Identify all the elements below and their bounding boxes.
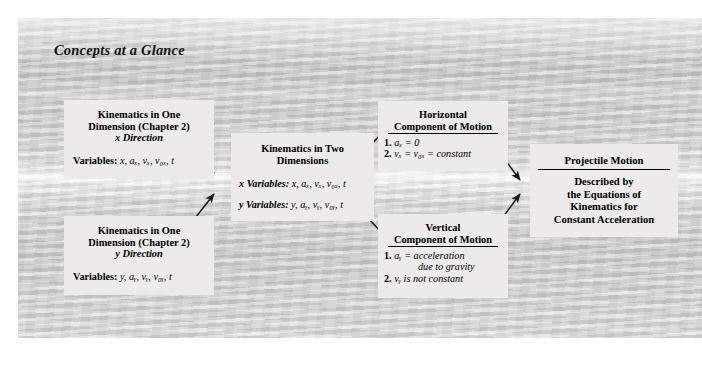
box-vertical-item-1-num: 1. bbox=[384, 250, 392, 261]
box-vertical-item-2-num: 2. bbox=[384, 273, 392, 284]
box-y-title-line1: Kinematics in One bbox=[64, 225, 214, 237]
box-projectile-line3: Kinematics for bbox=[530, 201, 678, 213]
box-y-vars-value: y, aᵧ, vᵧ, v₀ᵧ, t bbox=[120, 271, 172, 282]
box-horizontal-item-1-num: 1. bbox=[384, 137, 392, 148]
box-x-title-line3: x Direction bbox=[64, 132, 214, 144]
box-2d-title-line2: Dimensions bbox=[231, 155, 374, 167]
box-horizontal-item-2-text: vₓ = v₀ₓ = constant bbox=[394, 148, 471, 159]
box-horizontal-item-2: 2. vₓ = v₀ₓ = constant bbox=[378, 148, 508, 160]
box-x-title-line2: Dimension (Chapter 2) bbox=[64, 121, 214, 133]
box-y-title-line2: Dimension (Chapter 2) bbox=[64, 237, 214, 249]
box-vertical-component: Vertical Component of Motion 1. aᵧ = acc… bbox=[378, 214, 508, 298]
box-2d-y-vars-value: y, aᵧ, vᵧ, v₀ᵧ, t bbox=[291, 199, 343, 210]
box-vertical-item-1-text: aᵧ = acceleration bbox=[394, 250, 464, 261]
box-projectile-title: Projectile Motion bbox=[530, 155, 678, 167]
box-y-title-line3: y Direction bbox=[64, 248, 214, 260]
box-kinematics-one-dimension-y: Kinematics in One Dimension (Chapter 2) … bbox=[64, 216, 214, 295]
box-vertical-item-1-continued: due to gravity bbox=[378, 261, 508, 273]
box-y-vars-label: Variables: bbox=[73, 271, 117, 282]
box-horizontal-title-line2: Component of Motion bbox=[378, 121, 508, 133]
box-horizontal-item-1-text: aₓ = 0 bbox=[394, 137, 419, 148]
box-x-title-line1: Kinematics in One bbox=[64, 109, 214, 121]
box-horizontal-rule bbox=[388, 133, 498, 134]
rock-texture-panel: Concepts at a Glance Kinematics in One bbox=[18, 18, 702, 338]
box-vertical-item-1: 1. aᵧ = acceleration bbox=[378, 250, 508, 262]
box-2d-title-line1: Kinematics in Two bbox=[231, 143, 374, 155]
box-horizontal-item-1: 1. aₓ = 0 bbox=[378, 137, 508, 149]
box-vertical-item-2: 2. vᵧ is not constant bbox=[378, 273, 508, 285]
box-projectile-line4: Constant Acceleration bbox=[530, 214, 678, 226]
box-vertical-title-line1: Vertical bbox=[378, 222, 508, 234]
box-vertical-title-line2: Component of Motion bbox=[378, 234, 508, 246]
box-kinematics-one-dimension-x: Kinematics in One Dimension (Chapter 2) … bbox=[64, 100, 214, 179]
box-2d-y-vars-label: y Variables: bbox=[239, 199, 289, 210]
box-horizontal-item-2-num: 2. bbox=[384, 148, 392, 159]
box-projectile-line2: the Equations of bbox=[530, 189, 678, 201]
box-vertical-rule bbox=[388, 246, 498, 247]
box-horizontal-component: Horizontal Component of Motion 1. aₓ = 0… bbox=[378, 101, 508, 171]
box-projectile-line1: Described by bbox=[530, 176, 678, 188]
box-kinematics-two-dimensions: Kinematics in Two Dimensions x Variables… bbox=[231, 133, 374, 221]
figure-page: 88 Concepts at a Glance K bbox=[0, 0, 702, 366]
box-vertical-item-2-text: vᵧ is not constant bbox=[394, 273, 463, 284]
box-x-vars-value: x, aₓ, vₓ, v₀ₓ, t bbox=[120, 155, 174, 166]
box-projectile-motion: Projectile Motion Described by the Equat… bbox=[530, 144, 678, 237]
box-horizontal-title-line1: Horizontal bbox=[378, 109, 508, 121]
box-projectile-rule bbox=[538, 169, 670, 170]
box-2d-x-vars-value: x, aₓ, vₓ, v₀ₓ, t bbox=[292, 178, 346, 189]
box-x-vars-label: Variables: bbox=[73, 155, 117, 166]
box-2d-x-vars-label: x Variables: bbox=[239, 178, 289, 189]
